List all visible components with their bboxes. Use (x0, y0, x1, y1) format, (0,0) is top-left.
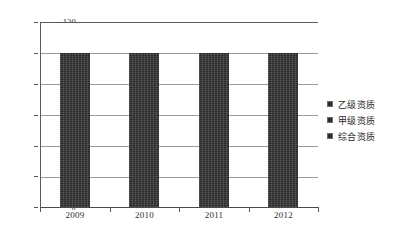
bar-2009[interactable] (60, 53, 90, 207)
bar-group-2010 (110, 22, 180, 207)
legend: 乙级资质 甲级资质 综合资质 (327, 96, 399, 144)
bars-layer (40, 22, 318, 207)
x-axis-label-2010: 2010 (110, 210, 180, 222)
legend-item-label: 综合资质 (338, 130, 375, 143)
x-axis-label-2009: 2009 (40, 210, 110, 222)
bar-group-2011 (179, 22, 249, 207)
legend-item-jiajizizhi[interactable]: 甲级资质 (327, 112, 399, 128)
y-axis-tick-mark (34, 176, 38, 177)
y-axis-tick-mark (34, 84, 38, 85)
x-axis-label-2011: 2011 (179, 210, 249, 222)
legend-item-zonghezizhi[interactable]: 综合资质 (327, 128, 399, 144)
legend-item-yijizizhi[interactable]: 乙级资质 (327, 96, 399, 112)
y-axis-tick-mark (34, 53, 38, 54)
bar-2012[interactable] (268, 53, 298, 207)
legend-swatch-icon (327, 101, 333, 107)
y-axis-tick-mark (34, 146, 38, 147)
bar-2010[interactable] (129, 53, 159, 207)
bar-2011[interactable] (199, 53, 229, 207)
legend-item-label: 甲级资质 (338, 114, 375, 127)
bar-group-2009 (40, 22, 110, 207)
legend-swatch-icon (327, 133, 333, 139)
legend-item-label: 乙级资质 (338, 98, 375, 111)
bar-chart: 120 100 80 60 40 20 0 (0, 0, 400, 239)
x-axis-label-2012: 2012 (249, 210, 319, 222)
y-axis-tick-mark (34, 22, 38, 23)
legend-swatch-icon (327, 117, 333, 123)
bar-group-2012 (249, 22, 319, 207)
y-axis-tick-mark (34, 207, 38, 208)
y-axis-tick-mark (34, 115, 38, 116)
